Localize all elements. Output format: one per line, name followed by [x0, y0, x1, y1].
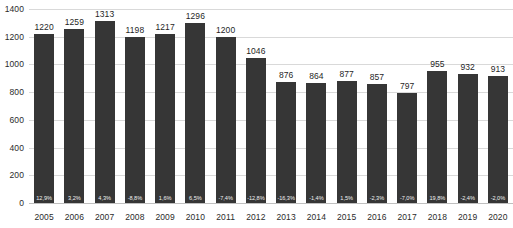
bar-percent-label: -2,4% [460, 195, 474, 201]
bar-slot: 913-2,0% [483, 9, 513, 203]
bar[interactable]: 913-2,0% [488, 76, 508, 203]
x-axis-tick-label: 2014 [301, 203, 331, 228]
bar-slot: 8771,5% [332, 9, 362, 203]
x-axis-tick-label: 2011 [211, 203, 241, 228]
bar-slot: 13134,3% [90, 9, 120, 203]
x-axis-tick-label: 2020 [483, 203, 513, 228]
bar-percent-label: -1,4% [309, 195, 323, 201]
bar-slot: 12966,5% [180, 9, 210, 203]
bar-value-label: 932 [460, 62, 474, 72]
bar-percent-label: 3,2% [68, 195, 81, 201]
bar-percent-label: -8,8% [128, 195, 142, 201]
bar-slot: 857-2,3% [362, 9, 392, 203]
y-axis: 0200400600800100012001400 [0, 0, 29, 228]
bar-value-label: 1296 [186, 11, 205, 21]
bar-slot: 95519,8% [422, 9, 452, 203]
y-axis-tick-label: 1000 [5, 59, 24, 69]
y-axis-tick-label: 200 [10, 170, 24, 180]
bar-value-label: 864 [309, 71, 323, 81]
bar-value-label: 877 [339, 69, 353, 79]
y-axis-tick-label: 600 [10, 115, 24, 125]
bar-percent-label: -7,4% [218, 195, 232, 201]
bar[interactable]: 797-7,0% [397, 93, 417, 203]
bar-percent-label: 4,3% [98, 195, 111, 201]
bar-percent-label: 1,5% [340, 195, 353, 201]
bar-value-label: 1200 [216, 25, 235, 35]
bar-percent-label: -12,8% [247, 195, 264, 201]
bar[interactable]: 857-2,3% [367, 84, 387, 203]
bar-percent-label: -7,0% [400, 195, 414, 201]
bar-value-label: 1198 [126, 25, 145, 35]
x-axis-tick-label: 2005 [29, 203, 59, 228]
x-axis-tick-label: 2019 [453, 203, 483, 228]
bar-slot: 1046-12,8% [241, 9, 271, 203]
x-axis-tick-label: 2010 [180, 203, 210, 228]
bar-percent-label: -2,3% [370, 195, 384, 201]
bar-value-label: 913 [491, 64, 505, 74]
bar[interactable]: 1200-7,4% [216, 37, 236, 203]
bar-value-label: 857 [370, 72, 384, 82]
bar-slot: 122012,9% [29, 9, 59, 203]
y-axis-tick-label: 400 [10, 143, 24, 153]
bar-slot: 876-16,3% [271, 9, 301, 203]
bar-value-label: 1220 [34, 22, 53, 32]
bar[interactable]: 95519,8% [427, 71, 447, 203]
x-axis-tick-label: 2013 [271, 203, 301, 228]
bar[interactable]: 12593,2% [64, 29, 84, 203]
y-axis-tick-label: 1200 [5, 32, 24, 42]
bar-value-label: 1313 [95, 9, 114, 19]
bar-chart: 0200400600800100012001400 122012,9%12593… [0, 0, 513, 228]
x-axis-tick-label: 2015 [332, 203, 362, 228]
bar-value-label: 1259 [65, 17, 84, 27]
y-axis-tick-label: 800 [10, 87, 24, 97]
bar[interactable]: 864-1,4% [306, 83, 326, 203]
x-axis-tick-label: 2009 [150, 203, 180, 228]
bar-percent-label: 12,9% [36, 195, 52, 201]
bar[interactable]: 876-16,3% [276, 82, 296, 203]
bar[interactable]: 932-2,4% [458, 74, 478, 203]
bar-slot: 1198-8,8% [120, 9, 150, 203]
bar-percent-label: -16,3% [277, 195, 294, 201]
x-axis-tick-label: 2006 [59, 203, 89, 228]
bar-value-label: 1217 [155, 22, 174, 32]
x-axis-tick-label: 2007 [90, 203, 120, 228]
bar-value-label: 876 [279, 70, 293, 80]
bar-slot: 12171,6% [150, 9, 180, 203]
bar-slot: 12593,2% [59, 9, 89, 203]
bar-percent-label: -2,0% [491, 195, 505, 201]
x-axis-tick-label: 2008 [120, 203, 150, 228]
bar[interactable]: 1046-12,8% [246, 58, 266, 203]
bar[interactable]: 12966,5% [185, 23, 205, 203]
x-axis-tick-label: 2017 [392, 203, 422, 228]
bar-series: 122012,9%12593,2%13134,3%1198-8,8%12171,… [29, 9, 513, 203]
x-axis-tick-label: 2016 [362, 203, 392, 228]
bar[interactable]: 1198-8,8% [125, 37, 145, 203]
bar-percent-label: 6,5% [189, 195, 202, 201]
bar-percent-label: 19,8% [430, 195, 446, 201]
x-axis-tick-label: 2012 [241, 203, 271, 228]
bar-slot: 797-7,0% [392, 9, 422, 203]
y-axis-tick-label: 0 [19, 198, 24, 208]
bar-percent-label: 1,6% [159, 195, 172, 201]
bar[interactable]: 13134,3% [95, 21, 115, 203]
bar[interactable]: 8771,5% [337, 81, 357, 203]
bar-value-label: 797 [400, 81, 414, 91]
bar-value-label: 955 [430, 59, 444, 69]
bar[interactable]: 12171,6% [155, 34, 175, 203]
x-axis: 2005200620072008200920102011201220132014… [29, 203, 513, 228]
bar-value-label: 1046 [246, 46, 265, 56]
bar-slot: 932-2,4% [453, 9, 483, 203]
x-axis-tick-label: 2018 [422, 203, 452, 228]
bar-slot: 864-1,4% [301, 9, 331, 203]
bar[interactable]: 122012,9% [34, 34, 54, 203]
y-axis-tick-label: 1400 [5, 4, 24, 14]
bar-slot: 1200-7,4% [211, 9, 241, 203]
